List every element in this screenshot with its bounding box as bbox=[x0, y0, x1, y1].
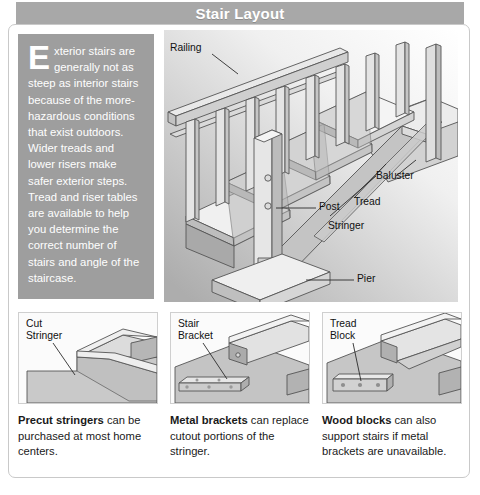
caption-bold-2: Metal brackets bbox=[170, 414, 248, 426]
panel-art-cut-stringer: Cut Stringer bbox=[18, 312, 158, 404]
intro-body: xterior stairs are generally not as stee… bbox=[28, 45, 139, 284]
panel-tread-block: Tread Block Wood blocks can also support… bbox=[322, 312, 462, 460]
label-pier: Pier bbox=[357, 273, 375, 284]
stair-layout-page: Stair Layout Exterior stairs are general… bbox=[0, 0, 480, 495]
panel-cut-stringer: Cut Stringer Precut stringers can be pur… bbox=[18, 312, 158, 460]
panel-label-stair-bracket: Stair Bracket bbox=[178, 318, 213, 343]
detail-panels: Cut Stringer Precut stringers can be pur… bbox=[18, 312, 462, 472]
page-title: Stair Layout bbox=[195, 5, 284, 22]
caption-bold-1: Precut stringers bbox=[18, 414, 104, 426]
panel-caption-stair-bracket: Metal brackets can replace cutout portio… bbox=[170, 413, 310, 460]
panel-stair-bracket: Stair Bracket Metal brackets can replace… bbox=[170, 312, 310, 460]
intro-paragraph: Exterior stairs are generally not as ste… bbox=[28, 43, 144, 286]
panel-art-tread-block: Tread Block bbox=[322, 312, 462, 404]
label-railing: Railing bbox=[170, 42, 201, 53]
panel-art-stair-bracket: Stair Bracket bbox=[170, 312, 310, 404]
stair-illustration bbox=[164, 30, 458, 302]
page-title-bar: Stair Layout bbox=[16, 2, 464, 24]
intro-text-block: Exterior stairs are generally not as ste… bbox=[18, 34, 154, 299]
caption-bold-3: Wood blocks bbox=[322, 414, 391, 426]
label-stringer: Stringer bbox=[328, 220, 364, 231]
panel-label-cut-stringer: Cut Stringer bbox=[26, 318, 62, 343]
intro-dropcap: E bbox=[28, 44, 54, 71]
label-post: Post bbox=[319, 201, 340, 212]
label-baluster: Baluster bbox=[376, 170, 414, 181]
label-tread: Tread bbox=[354, 196, 381, 207]
panel-caption-tread-block: Wood blocks can also support stairs if m… bbox=[322, 413, 462, 460]
panel-label-tread-block: Tread Block bbox=[330, 318, 357, 343]
stair-diagram: Railing Baluster Tread Stringer Post Pie… bbox=[164, 30, 458, 302]
panel-caption-cut-stringer: Precut stringers can be purchased at mos… bbox=[18, 413, 158, 460]
